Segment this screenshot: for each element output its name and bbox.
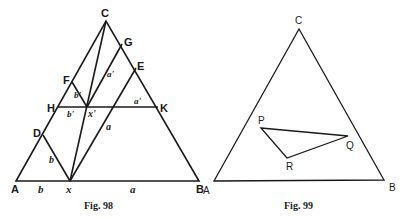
point-label-x-prime: x' xyxy=(87,108,96,119)
caption-fig-98: Fig. 98 xyxy=(84,200,113,211)
segment-label-b-dx: b xyxy=(49,154,54,165)
point-label-r: R xyxy=(286,161,293,172)
point-label-c-99: C xyxy=(295,15,302,26)
point-label-d: D xyxy=(33,127,41,139)
figure-page: C G E F H K D A B x x' b a b a b' b' a' … xyxy=(0,0,402,219)
line-xe xyxy=(70,68,136,181)
point-label-k: K xyxy=(160,102,168,114)
point-label-f: F xyxy=(63,74,70,86)
fig-99-labels: C A B P Q R Fig. 99 xyxy=(203,15,396,211)
caption-fig-99: Fig. 99 xyxy=(284,200,313,211)
line-xc xyxy=(70,21,106,181)
line-dx xyxy=(43,135,70,181)
diagram-canvas: C G E F H K D A B x x' b a b a b' b' a' … xyxy=(0,0,402,219)
point-label-c: C xyxy=(101,7,109,19)
point-label-p: P xyxy=(258,115,265,126)
point-label-x: x xyxy=(65,183,72,195)
segment-label-a-prime-k: a' xyxy=(134,96,142,106)
point-label-a-99: A xyxy=(203,185,210,196)
point-label-e: E xyxy=(137,60,144,72)
segment-label-b-base: b xyxy=(38,183,44,195)
fig-98 xyxy=(16,21,199,181)
point-label-a: A xyxy=(11,183,19,195)
point-label-h: H xyxy=(47,102,55,114)
fig-99 xyxy=(214,29,384,181)
point-label-g: G xyxy=(124,36,133,48)
segment-label-b-prime-h: b' xyxy=(67,109,75,119)
triangle-abc-99 xyxy=(214,29,384,181)
triangle-abc xyxy=(16,21,199,181)
segment-label-a-base: a xyxy=(130,183,136,195)
point-label-b-99: B xyxy=(389,182,396,193)
triangle-pqr xyxy=(261,128,348,158)
point-label-q: Q xyxy=(346,140,354,151)
segment-label-a-prime-g: a' xyxy=(107,69,115,79)
segment-label-a-xe: a xyxy=(106,121,111,132)
line-x-prime-g xyxy=(87,44,122,107)
segment-label-b-prime-f: b' xyxy=(74,90,82,100)
